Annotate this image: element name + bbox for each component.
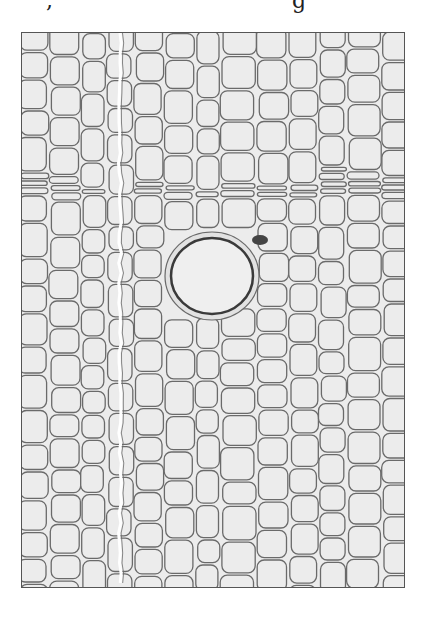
tracheid-cell bbox=[382, 185, 405, 190]
tracheid-cell bbox=[291, 185, 318, 190]
tracheid-cell bbox=[320, 486, 345, 511]
tracheid-cell bbox=[165, 540, 193, 573]
tracheid-cell bbox=[166, 186, 194, 190]
tracheid-cell bbox=[291, 378, 318, 408]
tracheid-cell bbox=[165, 126, 193, 154]
tracheid-cell bbox=[49, 177, 78, 184]
tracheid-cell bbox=[197, 199, 219, 227]
tracheid-cell bbox=[135, 33, 162, 51]
tracheid-cell bbox=[382, 367, 405, 396]
tracheid-cell bbox=[134, 189, 161, 193]
tracheid-cell bbox=[319, 136, 344, 165]
tracheid-cell bbox=[166, 34, 194, 58]
tracheid-cell bbox=[347, 559, 379, 588]
tracheid-cell bbox=[220, 575, 253, 588]
tracheid-cell bbox=[52, 495, 81, 522]
tracheid-cell bbox=[222, 57, 255, 89]
tracheid-cell bbox=[22, 188, 48, 194]
tracheid-cell bbox=[51, 237, 80, 268]
tracheid-cell bbox=[382, 150, 405, 175]
tracheid-cell bbox=[22, 181, 47, 185]
tracheid-cell bbox=[164, 452, 192, 479]
tracheid-cell bbox=[348, 432, 380, 463]
tracheid-cell bbox=[22, 559, 46, 582]
caption-fragment-left: , bbox=[46, 0, 53, 12]
tracheid-cell bbox=[222, 184, 255, 189]
tracheid-cell bbox=[257, 186, 286, 190]
tracheid-cell bbox=[348, 195, 380, 221]
tracheid-cell bbox=[81, 280, 104, 308]
tracheid-cell bbox=[22, 196, 46, 221]
tracheid-cell bbox=[134, 84, 161, 115]
tracheid-cell bbox=[197, 100, 219, 126]
tracheid-cell bbox=[257, 334, 286, 357]
tracheid-cell bbox=[82, 528, 105, 559]
tracheid-cell bbox=[257, 122, 286, 152]
tracheid-cell bbox=[51, 355, 80, 385]
tracheid-cell bbox=[134, 250, 161, 278]
tracheid-cell bbox=[50, 439, 79, 468]
tracheid-cell bbox=[289, 33, 316, 57]
tracheid-cell bbox=[135, 437, 162, 461]
tracheid-cell bbox=[222, 542, 255, 573]
tracheid-cell bbox=[220, 363, 253, 386]
tracheid-cell bbox=[196, 471, 218, 504]
tracheid-cell bbox=[165, 320, 193, 348]
tracheid-cell bbox=[136, 409, 163, 435]
tracheid-cell bbox=[289, 119, 316, 149]
tracheid-cell bbox=[349, 138, 381, 169]
tracheid-cell bbox=[134, 309, 161, 339]
tracheid-cell bbox=[82, 415, 105, 438]
tracheid-cell bbox=[83, 338, 106, 363]
tracheid-cell bbox=[81, 366, 104, 389]
tracheid-cell bbox=[50, 33, 79, 55]
resin-canal bbox=[171, 238, 253, 314]
tracheid-cell bbox=[320, 428, 345, 452]
tracheid-cell bbox=[347, 49, 379, 73]
tracheid-cell bbox=[221, 448, 254, 480]
tracheid-cell bbox=[135, 117, 162, 144]
tracheid-cell bbox=[22, 472, 48, 498]
tracheid-cell bbox=[135, 576, 162, 588]
tracheid-cell bbox=[22, 111, 49, 135]
tracheid-cell bbox=[289, 256, 316, 281]
tracheid-cell bbox=[22, 138, 46, 171]
tracheid-cell bbox=[165, 381, 193, 414]
tracheid-cell bbox=[319, 455, 344, 484]
caption-fragment-right: g bbox=[292, 0, 306, 12]
tracheid-cell bbox=[22, 223, 47, 256]
tracheid-cell bbox=[136, 374, 163, 407]
tracheid-cell bbox=[349, 250, 381, 283]
tracheid-cell bbox=[290, 469, 317, 493]
tracheid-cell bbox=[82, 230, 105, 253]
tracheid-cell bbox=[259, 502, 288, 528]
tracheid-cell bbox=[222, 339, 255, 361]
tracheid-cell bbox=[383, 399, 405, 432]
tracheid-cell bbox=[257, 199, 286, 221]
tracheid-cell bbox=[384, 304, 405, 336]
tracheid-cell bbox=[383, 251, 405, 277]
tracheid-cell bbox=[164, 481, 192, 505]
tracheid-cell bbox=[22, 173, 49, 178]
tracheid-cell bbox=[135, 549, 162, 574]
tracheid-cell bbox=[349, 466, 381, 491]
tracheid-cell bbox=[81, 129, 104, 161]
tracheid-cell bbox=[81, 163, 104, 187]
tracheid-cell bbox=[50, 329, 79, 353]
tracheid-cell bbox=[196, 506, 218, 538]
tracheid-cell bbox=[221, 191, 254, 197]
tracheid-cell bbox=[291, 227, 318, 254]
tracheid-cell bbox=[136, 53, 163, 81]
tracheid-cell bbox=[321, 167, 346, 171]
tracheid-cell bbox=[195, 381, 217, 407]
tracheid-cell bbox=[134, 493, 161, 521]
tracheid-cell bbox=[197, 351, 219, 379]
tracheid-cell bbox=[22, 533, 47, 557]
tracheid-cell bbox=[257, 33, 286, 58]
tracheid-cell bbox=[197, 318, 219, 349]
tracheid-cell bbox=[197, 33, 219, 64]
tracheid-cell bbox=[259, 253, 288, 281]
tracheid-cell bbox=[320, 33, 345, 48]
tracheid-cell bbox=[257, 309, 286, 332]
tracheid-cell bbox=[348, 373, 380, 397]
